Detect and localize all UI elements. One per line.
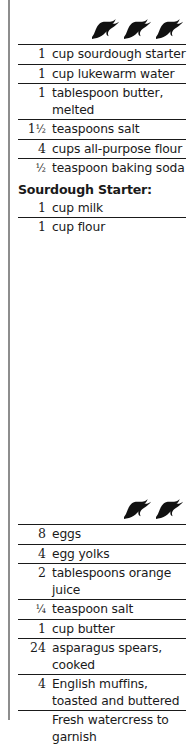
flying-bird-icon: [156, 18, 186, 44]
ingredient-list-starter: 1 cup milk 1 cup flour: [18, 199, 186, 237]
ingredient-quantity: 4: [18, 675, 52, 694]
quantity-whole: 24: [30, 640, 46, 655]
quantity-whole: 4: [38, 141, 46, 156]
ingredient-name: cups all-purpose flour: [52, 140, 186, 159]
ingredient-name: tablespoons orange juice: [52, 564, 186, 599]
ingredient-quantity: 8: [18, 525, 52, 544]
quantity-fraction: ¼: [36, 603, 46, 615]
ingredient-quantity: 1: [18, 199, 52, 218]
quantity-whole: 4: [38, 676, 46, 691]
ingredient-quantity: 1: [18, 620, 52, 639]
ingredient-name: teaspoon baking soda: [52, 159, 186, 178]
ingredient-name: teaspoon salt: [52, 600, 186, 619]
ingredient-row: 1½ teaspoons salt: [18, 120, 186, 140]
ingredient-row: 1 cup lukewarm water: [18, 65, 186, 85]
ingredient-row: ¼ teaspoon salt: [18, 600, 186, 620]
flying-bird-icon: [156, 498, 186, 524]
recipe-block-sourdough: 1 cup sourdough starter 1 cup lukewarm w…: [18, 8, 186, 237]
ingredient-name: asparagus spears, cooked: [52, 639, 186, 674]
ingredient-name: cup flour: [52, 218, 186, 237]
ingredient-quantity: [18, 711, 52, 713]
ingredient-quantity: 24: [18, 639, 52, 658]
ingredient-quantity: 1½: [18, 120, 52, 139]
page-gutter-rule: [8, 0, 10, 720]
ingredient-quantity: 2: [18, 564, 52, 583]
ingredient-quantity: 1: [18, 65, 52, 84]
ingredient-name: cup butter: [52, 620, 186, 639]
ingredient-name: teaspoons salt: [52, 120, 186, 139]
quantity-whole: 4: [38, 546, 46, 561]
ingredient-name: tablespoon butter, melted: [52, 84, 186, 119]
ingredient-name: egg yolks: [52, 545, 186, 564]
quantity-whole: 1: [38, 621, 46, 636]
ingredient-quantity: 1: [18, 84, 52, 103]
quantity-whole: 1: [28, 121, 36, 136]
ingredient-row: 1 cup milk: [18, 199, 186, 219]
ingredient-name: eggs: [52, 525, 186, 544]
recipe-block-asparagus: 8 eggs 4 egg yolks 2 tablespoons orange …: [18, 488, 186, 746]
ingredient-row: 4 English muffins, toasted and buttered: [18, 675, 186, 711]
quantity-whole: 1: [38, 85, 46, 100]
ingredient-row: 24 asparagus spears, cooked: [18, 639, 186, 675]
quantity-whole: 2: [38, 565, 46, 580]
ingredient-row: ½ teaspoon baking soda: [18, 159, 186, 178]
ingredient-quantity: 1: [18, 218, 52, 237]
ingredient-name: English muffins, toasted and buttered: [52, 675, 186, 710]
ingredient-row: 4 egg yolks: [18, 545, 186, 565]
quantity-fraction: ½: [36, 123, 46, 135]
ingredient-row: 8 eggs: [18, 525, 186, 545]
ingredient-row: 1 cup sourdough starter: [18, 45, 186, 65]
ingredient-row: 1 cup flour: [18, 218, 186, 237]
ingredient-row: Fresh watercress to garnish: [18, 711, 186, 746]
ingredient-row: 4 cups all-purpose flour: [18, 140, 186, 160]
ingredient-quantity: ½: [18, 159, 52, 178]
ingredient-list-main: 1 cup sourdough starter 1 cup lukewarm w…: [18, 44, 186, 178]
ingredient-name: cup lukewarm water: [52, 65, 186, 84]
ingredient-row: 2 tablespoons orange juice: [18, 564, 186, 600]
flying-bird-icon: [124, 498, 154, 524]
quantity-whole: 8: [38, 526, 46, 541]
flying-bird-icon: [92, 18, 122, 44]
ingredient-list-main: 8 eggs 4 egg yolks 2 tablespoons orange …: [18, 524, 186, 746]
ingredient-row: 1 tablespoon butter, melted: [18, 84, 186, 120]
quantity-whole: 1: [38, 219, 46, 234]
subsection-heading: Sourdough Starter:: [18, 178, 186, 199]
ingredient-name: cup milk: [52, 199, 186, 218]
quantity-whole: 1: [38, 46, 46, 61]
ingredient-name: cup sourdough starter: [52, 45, 186, 64]
ingredient-quantity: 1: [18, 45, 52, 64]
flying-bird-icon: [124, 18, 154, 44]
bird-ornament-bottom: [18, 488, 186, 524]
ingredient-name: Fresh watercress to garnish: [52, 711, 186, 746]
ingredient-quantity: 4: [18, 545, 52, 564]
ingredient-quantity: ¼: [18, 600, 52, 619]
quantity-whole: 1: [38, 66, 46, 81]
quantity-whole: 1: [38, 200, 46, 215]
quantity-fraction: ½: [36, 162, 46, 174]
ingredient-quantity: 4: [18, 140, 52, 159]
ingredient-row: 1 cup butter: [18, 620, 186, 640]
bird-ornament-top: [18, 8, 186, 44]
